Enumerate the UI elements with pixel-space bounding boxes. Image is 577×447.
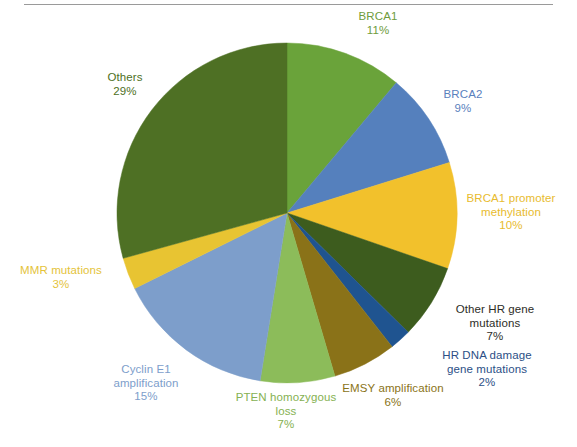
slice-label-pten-homozygous-loss: PTEN homozygous loss 7%	[222, 391, 350, 432]
slice-label-others: Others 29%	[70, 71, 180, 98]
slice-label-brca1-promoter-methylation-line2: methylation	[481, 206, 541, 218]
slice-label-brca2: BRCA2 9%	[408, 88, 518, 115]
slice-label-pten-homozygous-loss-line2: loss	[276, 405, 297, 417]
slice-label-pten-homozygous-loss-percent: 7%	[222, 418, 350, 432]
slice-label-brca1-promoter-methylation-percent: 10%	[448, 219, 574, 233]
slice-label-cyclin-e1-amplification-line2: amplification	[113, 377, 178, 389]
slice-label-other-hr-gene-mutations-line1: Other HR gene	[456, 303, 535, 315]
slice-label-mmr-mutations: MMR mutations 3%	[0, 264, 122, 291]
pie-chart-figure: BRCA1 11% BRCA2 9% BRCA1 promoter methyl…	[0, 0, 577, 447]
slice-label-other-hr-gene-mutations: Other HR gene mutations 7%	[432, 303, 558, 344]
slice-label-brca2-name: BRCA2	[444, 88, 483, 100]
slice-label-other-hr-gene-mutations-line2: mutations	[470, 317, 521, 329]
slice-label-cyclin-e1-amplification-percent: 15%	[86, 390, 206, 404]
slice-label-mmr-mutations-percent: 3%	[0, 278, 122, 292]
slice-label-brca1-percent: 11%	[318, 24, 438, 38]
slice-label-brca1: BRCA1 11%	[318, 10, 438, 37]
slice-label-brca1-promoter-methylation-line1: BRCA1 promoter	[467, 192, 556, 204]
slice-label-cyclin-e1-amplification: Cyclin E1 amplification 15%	[86, 363, 206, 404]
slice-label-hr-dna-damage-gene-mutations-line2: gene mutations	[447, 363, 527, 375]
slice-label-brca1-name: BRCA1	[359, 10, 398, 22]
slice-label-brca2-percent: 9%	[408, 102, 518, 116]
slice-label-other-hr-gene-mutations-percent: 7%	[432, 330, 558, 344]
slice-label-brca1-promoter-methylation: BRCA1 promoter methylation 10%	[448, 192, 574, 233]
slice-label-emsy-amplification-name: EMSY amplification	[342, 382, 443, 394]
slice-label-mmr-mutations-name: MMR mutations	[20, 264, 102, 276]
slice-label-others-percent: 29%	[70, 85, 180, 99]
slice-label-cyclin-e1-amplification-line1: Cyclin E1	[121, 363, 170, 375]
slice-label-others-name: Others	[107, 71, 142, 83]
slice-label-hr-dna-damage-gene-mutations-line1: HR DNA damage	[442, 349, 532, 361]
slice-label-pten-homozygous-loss-line1: PTEN homozygous	[236, 391, 337, 403]
